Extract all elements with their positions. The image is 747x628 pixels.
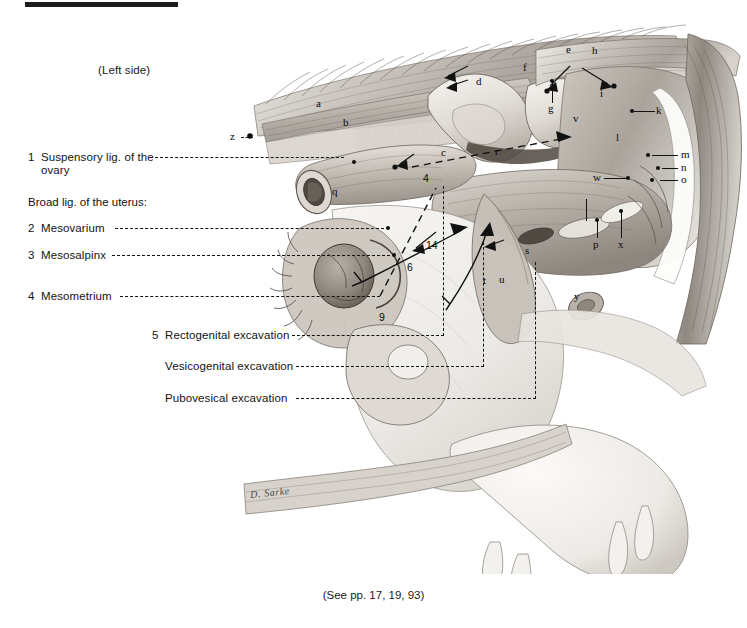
- legend-item-vesicogenital: Vesicogenital excavation: [165, 360, 293, 372]
- leader-line-1: [150, 157, 344, 158]
- anatomical-illustration: [236, 14, 747, 574]
- legend-label-4: Mesometrium: [41, 290, 112, 302]
- legend-label-1: Suspensory lig. of the: [41, 151, 154, 163]
- leader-dot-m: [646, 153, 650, 157]
- leader-dot-w: [626, 176, 630, 180]
- leader-dot-1: [352, 160, 356, 164]
- leader-line-2: [115, 228, 384, 229]
- callout-l: l: [616, 132, 619, 143]
- legend-item-3: 3Mesosalpinx: [28, 249, 106, 261]
- leader-line-z: [241, 137, 253, 138]
- leader-line-p: [597, 221, 598, 238]
- plate-page: (Left side) 1Suspensory lig. of the ovar…: [0, 0, 747, 628]
- callout-h: h: [592, 45, 598, 56]
- legend-number-5: 5: [152, 329, 165, 341]
- legend-label-3: Mesosalpinx: [41, 249, 106, 261]
- callout-n: n: [681, 162, 687, 173]
- leader-line-vesicogenital-vertical: [483, 242, 484, 367]
- legend-item-4: 4Mesometrium: [28, 290, 112, 302]
- callout-o: o: [681, 174, 687, 185]
- leader-dot-p: [595, 218, 599, 222]
- callout-x: x: [618, 239, 624, 250]
- callout-p: p: [593, 239, 599, 250]
- callout-6: 6: [407, 262, 413, 273]
- callout-i: i: [600, 88, 603, 99]
- callout-q: q: [332, 186, 338, 197]
- callout-9: 9: [379, 312, 385, 323]
- callout-14: 14: [426, 240, 438, 251]
- legend-item-1: 1Suspensory lig. of the: [28, 151, 154, 163]
- legend-item-2: 2Mesovarium: [28, 222, 105, 234]
- leader-line-4: [120, 296, 380, 297]
- legend-label-1-cont: ovary: [41, 164, 70, 176]
- leader-line-pubovesical: [296, 398, 536, 399]
- callout-w: w: [593, 172, 601, 183]
- leader-line-o: [660, 180, 678, 181]
- callout-d: d: [476, 76, 482, 87]
- legend-label-2: Mesovarium: [41, 222, 105, 234]
- legend-number-1: 1: [28, 151, 41, 163]
- callout-s: s: [525, 245, 529, 256]
- callout-y: y: [574, 291, 580, 302]
- leader-line-pubovesical-vertical: [535, 262, 536, 399]
- leader-dot-x: [619, 209, 623, 213]
- leader-line-w: [604, 178, 626, 179]
- side-note: (Left side): [98, 64, 150, 76]
- legend-item-pubovesical: Pubovesical excavation: [165, 392, 287, 404]
- leader-dot-k: [630, 109, 634, 113]
- callout-f: f: [523, 62, 527, 73]
- callout-r: r: [495, 146, 499, 157]
- page-caption: (See pp. 17, 19, 93): [0, 589, 747, 601]
- legend-group-heading: Broad lig. of the uterus:: [28, 196, 147, 208]
- leader-line-x: [621, 212, 622, 238]
- callout-b: b: [343, 117, 349, 128]
- leader-line-5-vertical: [443, 186, 444, 336]
- leader-dot-g: [550, 79, 554, 83]
- leader-line-i2: [586, 199, 587, 221]
- leader-line-g: [552, 82, 553, 103]
- callout-4: 4: [423, 173, 429, 184]
- leader-line-3: [112, 255, 390, 256]
- leader-line-m: [652, 155, 678, 156]
- callout-g: g: [548, 103, 554, 114]
- leader-dot-o: [650, 178, 654, 182]
- callout-e: e: [566, 44, 571, 55]
- legend-label-5: Rectogenital excavation: [165, 329, 289, 341]
- leader-dot-n: [656, 166, 660, 170]
- legend-number-3: 3: [28, 249, 41, 261]
- legend-number-2: 2: [28, 222, 41, 234]
- top-rule: [25, 2, 178, 7]
- callout-c: c: [441, 147, 446, 158]
- callout-m: m: [681, 149, 690, 160]
- leader-line-5: [292, 335, 444, 336]
- callout-u: u: [499, 274, 505, 285]
- callout-a: a: [316, 98, 321, 109]
- callout-k: k: [656, 105, 662, 116]
- legend-item-5: 5Rectogenital excavation: [152, 329, 289, 341]
- callout-z: z: [230, 131, 235, 142]
- leader-line-k: [634, 111, 655, 112]
- callout-v: v: [573, 113, 579, 124]
- leader-line-vesicogenital: [296, 366, 484, 367]
- legend-number-4: 4: [28, 290, 41, 302]
- leader-line-n: [662, 168, 678, 169]
- callout-t: t: [483, 275, 486, 286]
